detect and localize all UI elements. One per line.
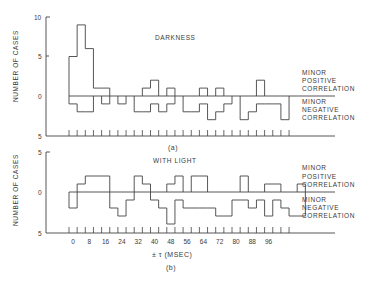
panel-a-ylabel: NUMBER OF CASES <box>12 30 19 102</box>
panel-a-ytick-0: 0 <box>38 93 42 100</box>
panel-a-ytick-10: 10 <box>34 14 42 21</box>
panel-b: 5 0 5 NUMBER OF CASES WITH LIGHT MINOR P… <box>12 149 355 272</box>
svg-text:8: 8 <box>87 238 91 245</box>
panel-b-pos-positive: POSITIVE <box>302 173 337 180</box>
panel-a-pos-correlation: CORRELATION <box>302 85 355 92</box>
svg-text:32: 32 <box>135 238 143 245</box>
panel-b-ytick-5: 5 <box>38 149 42 156</box>
svg-text:40: 40 <box>151 238 159 245</box>
panel-b-x-ticks <box>69 227 289 233</box>
svg-text:96: 96 <box>265 238 273 245</box>
panel-a-negative-histogram <box>69 96 289 120</box>
svg-text:48: 48 <box>167 238 175 245</box>
svg-text:0: 0 <box>71 238 75 245</box>
panel-a-neg-negative: NEGATIVE <box>302 106 339 113</box>
panel-a-caption: (a) <box>168 144 178 152</box>
panel-b-neg-negative: NEGATIVE <box>302 204 339 211</box>
panel-a-neg-correlation: CORRELATION <box>302 114 355 121</box>
panel-b-ytick-0: 0 <box>38 189 42 196</box>
svg-text:16: 16 <box>102 238 110 245</box>
svg-text:88: 88 <box>249 238 257 245</box>
svg-text:64: 64 <box>200 238 208 245</box>
panel-a-neg-minor: MINOR <box>302 98 327 105</box>
panel-b-pos-correlation: CORRELATION <box>302 181 355 188</box>
svg-text:72: 72 <box>216 238 224 245</box>
svg-text:56: 56 <box>183 238 191 245</box>
panel-b-caption: (b) <box>166 264 176 272</box>
svg-text:80: 80 <box>232 238 240 245</box>
panel-b-ylabel: NUMBER OF CASES <box>12 154 19 226</box>
panel-b-ytick-neg5: 5 <box>38 230 42 237</box>
panel-b-title: WITH LIGHT <box>153 157 197 164</box>
panel-a-title: DARKNESS <box>155 34 196 41</box>
panel-a-x-ticks <box>69 130 289 136</box>
panel-b-neg-correlation: CORRELATION <box>302 212 355 219</box>
panel-b-negative-histogram <box>69 192 305 224</box>
panel-a-pos-minor: MINOR <box>302 69 327 76</box>
x-axis-label: ± τ (MSEC) <box>152 251 192 259</box>
panel-a: 10 5 0 5 NUMBER OF CASES DARKNESS MINOR … <box>12 14 355 152</box>
panel-a-ytick-neg5: 5 <box>38 133 42 140</box>
panel-b-x-tick-labels: 081624324048566472808896 <box>71 238 272 245</box>
panel-b-positive-histogram <box>77 176 305 192</box>
correlation-histogram-figure: 10 5 0 5 NUMBER OF CASES DARKNESS MINOR … <box>0 0 368 282</box>
panel-b-pos-minor: MINOR <box>302 164 327 171</box>
svg-text:24: 24 <box>118 238 126 245</box>
panel-a-pos-positive: POSITIVE <box>302 77 337 84</box>
panel-a-ytick-5: 5 <box>38 53 42 60</box>
